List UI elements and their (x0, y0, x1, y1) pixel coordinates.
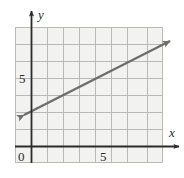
coordinate-plane-figure: y x 5 5 0 (0, 0, 184, 178)
x-axis-label: x (169, 126, 175, 139)
y-axis-tick-label-5: 5 (19, 72, 26, 85)
y-axis-label: y (38, 8, 44, 21)
origin-label: 0 (18, 150, 25, 163)
graph-canvas (0, 0, 184, 178)
x-axis-tick-label-5: 5 (100, 150, 107, 163)
